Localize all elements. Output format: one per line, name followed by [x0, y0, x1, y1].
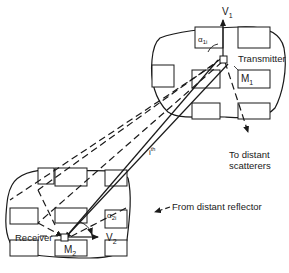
- alpha2-arc: [80, 222, 92, 234]
- transmitter-label: Transmitter: [238, 53, 286, 64]
- reflector-arrow: [155, 207, 170, 212]
- from-reflector-label: From distant reflector: [172, 201, 262, 212]
- propagation-diagram: V1 α1i Transmitter M1 ith To distant sca…: [0, 0, 289, 273]
- ith-label: ith: [149, 146, 155, 157]
- to-scatterers-line1: To distant: [229, 149, 270, 160]
- transmitter-area: [152, 27, 286, 119]
- to-scatterers-line2: scatterers: [229, 160, 271, 171]
- receiver-label: Receiver: [15, 232, 53, 243]
- v1-label: V1: [222, 6, 233, 19]
